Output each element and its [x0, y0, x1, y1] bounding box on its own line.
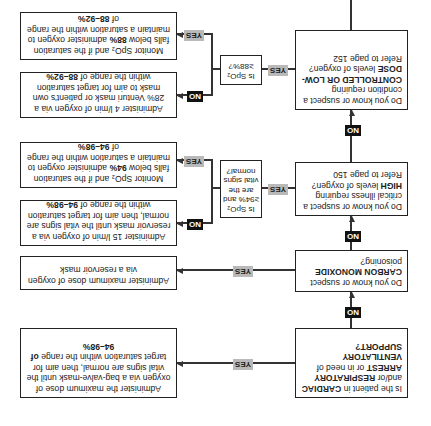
action-venturi-28: Administer 4 l/min of oxygen via a 28% V… — [20, 72, 177, 118]
action-reservoir-mask-max: Administer maximum dose of oxygen via a … — [20, 256, 177, 290]
decision-low-dose-oxygen: Do you know or suspect a condition requi… — [295, 30, 408, 110]
text: and/or — [375, 374, 402, 384]
arrow — [177, 221, 183, 227]
action-bag-valve-mask: Administer the maximum dose of oxygen vi… — [20, 328, 177, 398]
text: or in need of — [316, 363, 366, 373]
text: 88% — [109, 36, 126, 46]
text: Administer the maximum dose of oxygen vi… — [27, 353, 171, 395]
text: VENTILATORY SUPPORT? — [343, 342, 402, 363]
decision-high-oxygen: Do you know or suspect a critical illnes… — [295, 162, 408, 216]
connector — [212, 160, 214, 224]
check-spo2-94: Is SpO₂ ≥94% and are the vital signs nor… — [220, 160, 262, 218]
check-spo2-88: Is SpO₂ ≥88%? — [220, 55, 262, 85]
connector — [212, 188, 220, 190]
text: 88–92% — [46, 73, 78, 83]
no-badge: NO — [345, 307, 361, 318]
arrow — [349, 292, 355, 298]
text: 94–98% — [46, 201, 78, 211]
arrow — [349, 216, 355, 222]
connector — [212, 69, 220, 71]
no-badge: NO — [187, 91, 203, 102]
yes-badge: YES — [184, 156, 204, 167]
text: CARDIAC — [302, 384, 342, 394]
no-badge: NO — [345, 125, 361, 136]
connector — [212, 34, 214, 96]
text: Is SpO₂ ≥94% and are the vital signs nor… — [223, 167, 259, 214]
yes-badge: YES — [184, 30, 204, 41]
text: CARBON MONOXIDE — [315, 268, 402, 278]
text: levels of oxygen? — [309, 65, 378, 75]
arrow — [177, 32, 183, 38]
arrow — [349, 110, 355, 116]
connector — [351, 110, 353, 162]
text: Is the patient in — [341, 384, 402, 394]
decision-carbon-monoxide: Do you know or suspect CARBON MONOXIDE p… — [295, 250, 408, 292]
yes-badge: YES — [268, 184, 288, 195]
no-badge: NO — [345, 231, 361, 242]
arrow — [177, 93, 183, 99]
text: Do you know or suspect a critical illnes… — [303, 192, 402, 213]
text: poisoning? — [360, 257, 402, 267]
action-monitor-94: Monitor SpO₂ and if the saturation falls… — [20, 142, 177, 188]
yes-badge: YES — [233, 359, 253, 370]
no-badge: NO — [187, 219, 203, 230]
arrow — [177, 361, 183, 367]
yes-badge: YES — [233, 266, 253, 277]
text: Do you know or suspect — [310, 278, 402, 288]
text: Administer maximum dose of oxygen via a … — [28, 266, 169, 287]
oxygen-flowchart: Is the patient in CARDIAC and/or RESPIRA… — [0, 0, 431, 426]
arrow — [177, 268, 183, 274]
text: Is SpO₂ ≥88%? — [227, 62, 255, 81]
arrow — [177, 158, 183, 164]
text: 94% — [109, 164, 126, 174]
connector — [351, 0, 353, 30]
action-15l-reservoir: Administer 15 l/min of oxygen via a rese… — [20, 200, 177, 246]
page-reference: Refer to page 152 — [333, 54, 402, 64]
text: levels of oxygen? — [312, 181, 381, 191]
decision-cardiac-arrest: Is the patient in CARDIAC and/or RESPIRA… — [295, 328, 408, 398]
text: Do you know or suspect a condition requi… — [303, 86, 402, 107]
yes-badge: YES — [268, 65, 288, 76]
action-monitor-88: Monitor SpO₂ and if the saturation falls… — [20, 12, 177, 60]
text: HIGH — [381, 181, 402, 191]
text: 88–92% — [78, 15, 110, 25]
text: 94–98% — [78, 143, 110, 153]
page-reference: Refer to page 150 — [333, 171, 402, 181]
